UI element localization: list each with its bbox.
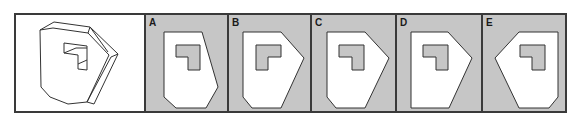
spatial-reasoning-puzzle: A B C D E: [14, 13, 567, 113]
flat-shape-icon: [397, 15, 483, 111]
reference-panel: [16, 15, 144, 111]
option-d[interactable]: D: [395, 15, 481, 111]
option-a[interactable]: A: [144, 15, 227, 111]
flat-shape-icon: [312, 15, 397, 111]
flat-shape-icon: [229, 15, 312, 111]
option-b[interactable]: B: [227, 15, 310, 111]
option-e[interactable]: E: [481, 15, 565, 111]
option-c[interactable]: C: [310, 15, 395, 111]
3d-block-icon: [16, 15, 144, 111]
flat-shape-icon: [146, 15, 229, 111]
flat-shape-icon: [483, 15, 567, 111]
